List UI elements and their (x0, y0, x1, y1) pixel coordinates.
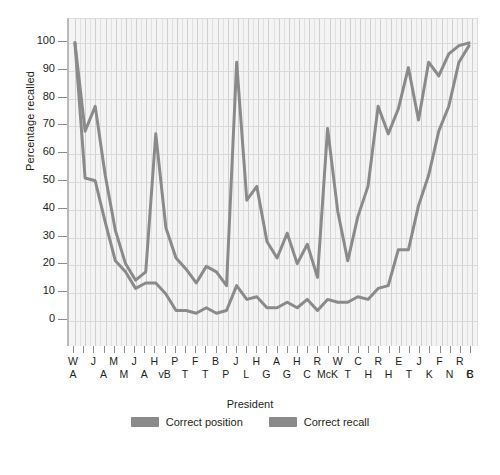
x-axis-tick (246, 346, 247, 353)
y-tick-label: 70 (43, 117, 55, 129)
x-axis-tick (348, 346, 349, 353)
x-axis-tick (144, 346, 145, 353)
x-axis-tick (73, 346, 74, 353)
x-axis-title: President (0, 398, 500, 410)
x-axis-tick (389, 346, 390, 353)
y-tick-mark (58, 180, 67, 181)
x-axis-tick (409, 346, 410, 353)
x-axis-tick (358, 346, 359, 353)
x-axis-tick (256, 346, 257, 353)
y-tick-label: 100 (37, 34, 55, 46)
x-axis-tick (429, 346, 430, 353)
x-axis-tick (134, 346, 135, 353)
legend-label: Correct position (166, 416, 243, 428)
data-lines (69, 19, 477, 345)
x-tick-label-row2: B (458, 368, 482, 381)
y-tick-mark (58, 41, 67, 42)
y-tick-label: 40 (43, 201, 55, 213)
y-axis-ticks: 0102030405060708090100 (0, 0, 67, 346)
y-tick-label: 50 (43, 173, 55, 185)
x-axis-tick (114, 346, 115, 353)
y-tick-mark (58, 69, 67, 70)
y-tick-mark (58, 319, 67, 320)
x-axis-tick (236, 346, 237, 353)
x-axis-tick (124, 346, 125, 353)
x-axis-tick (338, 346, 339, 353)
legend-item: Correct position (131, 416, 243, 428)
y-tick-mark (58, 236, 67, 237)
x-axis-tick (317, 346, 318, 353)
y-tick-label: 60 (43, 145, 55, 157)
x-axis-tick (165, 346, 166, 353)
y-tick-label: 80 (43, 90, 55, 102)
x-axis-tick (266, 346, 267, 353)
x-axis-tick (378, 346, 379, 353)
chart-legend: Correct positionCorrect recall (0, 416, 500, 428)
x-axis-tick (450, 346, 451, 353)
x-axis-tick (185, 346, 186, 353)
y-tick-label: 20 (43, 256, 55, 268)
chart-figure: Percentage recalled 01020304050607080901… (0, 0, 500, 475)
legend-swatch (131, 417, 159, 427)
x-axis-tick (226, 346, 227, 353)
legend-swatch (269, 417, 297, 427)
x-axis-tick (419, 346, 420, 353)
y-tick-label: 30 (43, 229, 55, 241)
x-axis-tick (205, 346, 206, 353)
x-axis-tick (175, 346, 176, 353)
y-tick-mark (58, 152, 67, 153)
x-axis-tick (93, 346, 94, 353)
x-axis-tick (195, 346, 196, 353)
legend-label: Correct recall (304, 416, 369, 428)
x-axis-tick (399, 346, 400, 353)
x-axis-tick (297, 346, 298, 353)
legend-item: Correct recall (269, 416, 369, 428)
x-axis-tick (440, 346, 441, 353)
y-tick-label: 0 (49, 312, 55, 324)
x-axis-tick (368, 346, 369, 353)
x-axis-tick (216, 346, 217, 353)
x-axis-tick (470, 346, 471, 353)
y-tick-mark (58, 208, 67, 209)
x-axis-tick (287, 346, 288, 353)
x-axis-tick (277, 346, 278, 353)
x-axis-tick (307, 346, 308, 353)
y-tick-mark (58, 291, 67, 292)
y-tick-label: 10 (43, 284, 55, 296)
y-tick-mark (58, 124, 67, 125)
x-axis-tick (328, 346, 329, 353)
x-axis-tick (154, 346, 155, 353)
plot-area (67, 18, 478, 346)
x-axis-tick-labels: WA J AM MJ AH vBP TF TB PJ LH GA GH CR M… (67, 355, 478, 391)
x-axis-tick (460, 346, 461, 353)
y-tick-mark (58, 97, 67, 98)
x-axis-tick (104, 346, 105, 353)
x-axis-tick (83, 346, 84, 353)
y-tick-label: 90 (43, 62, 55, 74)
x-tick-label: B (458, 355, 482, 381)
y-tick-mark (58, 263, 67, 264)
x-tick-label-row1 (458, 355, 482, 368)
